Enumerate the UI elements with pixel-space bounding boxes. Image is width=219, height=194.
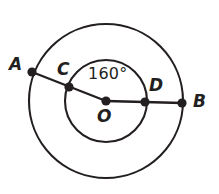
point-label-d: D: [149, 77, 163, 94]
geometry-canvas: [0, 0, 219, 194]
point-label-c: C: [57, 61, 69, 78]
point-dot-a: [27, 67, 36, 76]
point-label-a: A: [9, 56, 22, 73]
point-dot-b: [177, 98, 186, 107]
geometry-figure: A B C D O 160°: [0, 0, 219, 194]
point-dot-o: [101, 96, 110, 105]
angle-measure-label: 160°: [88, 66, 127, 82]
point-dot-d: [140, 97, 149, 106]
center-label-o: O: [97, 108, 111, 125]
point-dot-c: [64, 82, 73, 91]
point-label-b: B: [193, 93, 206, 110]
